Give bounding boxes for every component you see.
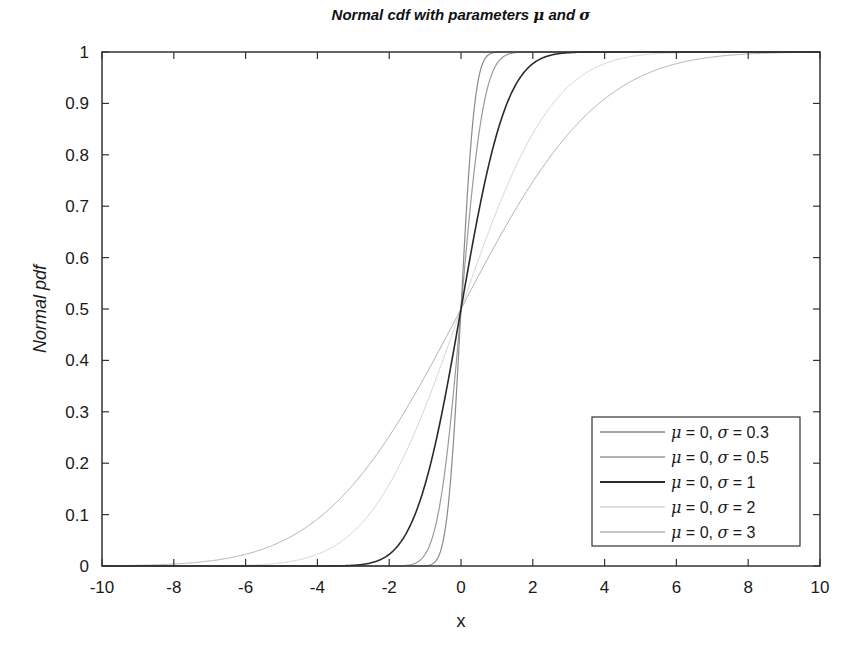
x-tick-label: -6 xyxy=(238,578,253,597)
y-tick-label: 0.7 xyxy=(65,197,89,216)
x-tick-label: 10 xyxy=(811,578,830,597)
y-tick-label: 0.2 xyxy=(65,454,89,473)
legend-entry-label: μ = 0, σ = 3 xyxy=(671,523,756,542)
x-tick-label: 0 xyxy=(456,578,465,597)
y-tick-label: 0 xyxy=(80,557,89,576)
y-tick-label: 0.6 xyxy=(65,249,89,268)
legend-entry-label: μ = 0, σ = 0.5 xyxy=(671,448,769,467)
legend: μ = 0, σ = 0.3μ = 0, σ = 0.5μ = 0, σ = 1… xyxy=(592,417,800,546)
x-tick-label: -8 xyxy=(166,578,181,597)
x-axis-label: x xyxy=(457,611,466,631)
y-tick-label: 0.5 xyxy=(65,300,89,319)
y-axis-label: Normal pdf xyxy=(30,263,50,353)
y-tick-label: 0.4 xyxy=(65,351,89,370)
chart-title: Normal cdf with parameters μ and σ xyxy=(332,6,592,24)
y-tick-label: 1 xyxy=(80,43,89,62)
x-tick-label: -10 xyxy=(90,578,115,597)
x-tick-label: 2 xyxy=(528,578,537,597)
legend-entry-label: μ = 0, σ = 1 xyxy=(671,473,756,492)
x-tick-label: 4 xyxy=(600,578,609,597)
legend-entry-label: μ = 0, σ = 0.3 xyxy=(671,423,769,442)
y-tick-label: 0.3 xyxy=(65,403,89,422)
legend-entry-label: μ = 0, σ = 2 xyxy=(671,498,756,517)
y-tick-label: 0.1 xyxy=(65,506,89,525)
x-tick-label: 6 xyxy=(672,578,681,597)
y-tick-label: 0.8 xyxy=(65,146,89,165)
x-tick-label: 8 xyxy=(743,578,752,597)
x-tick-label: -2 xyxy=(382,578,397,597)
x-tick-label: -4 xyxy=(310,578,325,597)
chart-figure: Normal cdf with parameters μ and σ -10-8… xyxy=(0,0,859,656)
y-tick-label: 0.9 xyxy=(65,94,89,113)
